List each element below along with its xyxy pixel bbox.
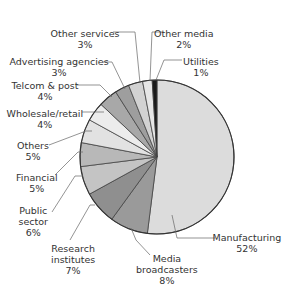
slice-label-percent: 4%	[7, 119, 84, 130]
slice-label-name: Others	[17, 140, 49, 151]
slice-label: Other media2%	[154, 28, 214, 50]
slice-label: Wholesale/retail4%	[7, 108, 84, 130]
slice-label-name: Publicsector	[19, 205, 48, 227]
slice-label-percent: 5%	[16, 183, 58, 194]
slice-label-name: Wholesale/retail	[7, 108, 84, 119]
leader-line	[156, 60, 182, 80]
slice-label-percent: 4%	[12, 91, 79, 102]
leader-line	[70, 205, 95, 240]
slice-label: Advertising agencies3%	[10, 56, 109, 78]
leader-line	[77, 85, 112, 97]
pie-slice-manufacturing	[147, 80, 234, 234]
slice-label-percent: 52%	[213, 243, 282, 254]
slice-label-name: Mediabroadcasters	[136, 253, 198, 275]
slice-label: Utilities1%	[183, 56, 219, 78]
slice-label: Manufacturing52%	[213, 232, 282, 254]
slice-label-percent: 6%	[19, 227, 48, 238]
slice-label-percent: 3%	[51, 39, 120, 50]
slice-label-name: Other media	[154, 28, 214, 39]
slice-label-percent: 3%	[10, 67, 109, 78]
slice-label-name: Financial	[16, 172, 58, 183]
slice-label-percent: 8%	[136, 275, 198, 286]
slice-label: Financial5%	[16, 172, 58, 194]
slice-label-percent: 7%	[51, 265, 95, 276]
slice-label: Telcom & post4%	[12, 80, 79, 102]
slice-label: Researchinstitutes7%	[51, 243, 95, 276]
slice-label-name: Telcom & post	[12, 80, 79, 91]
slice-label: Other services3%	[51, 28, 120, 50]
slice-label-percent: 5%	[17, 151, 49, 162]
leader-line	[55, 152, 83, 175]
slice-label-name: Advertising agencies	[10, 56, 109, 67]
slice-label-percent: 1%	[183, 67, 219, 78]
slice-label-percent: 2%	[154, 39, 214, 50]
slice-label-name: Manufacturing	[213, 232, 282, 243]
slice-label-name: Utilities	[183, 56, 219, 67]
slice-label-name: Researchinstitutes	[51, 243, 95, 265]
slice-label: Others5%	[17, 140, 49, 162]
slice-label: Publicsector6%	[19, 205, 48, 238]
pie-slices	[80, 80, 234, 234]
slice-label: Mediabroadcasters8%	[136, 253, 198, 286]
slice-label-name: Other services	[51, 28, 120, 39]
